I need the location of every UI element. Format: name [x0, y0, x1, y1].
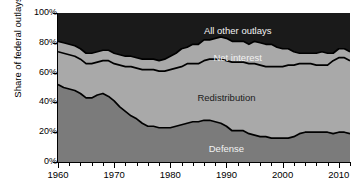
y-tick-mark — [53, 102, 57, 103]
x-tick-minor — [305, 163, 306, 166]
x-tick-minor — [137, 163, 138, 166]
x-tick-minor — [260, 163, 261, 166]
x-tick-major — [226, 163, 227, 168]
x-tick-major — [58, 163, 59, 168]
x-tick-minor — [316, 163, 317, 166]
x-tick-minor — [271, 163, 272, 166]
x-tick-minor — [159, 163, 160, 166]
x-tick-label: 2000 — [263, 170, 303, 180]
x-tick-minor — [182, 163, 183, 166]
x-tick-minor — [125, 163, 126, 166]
x-tick-major — [283, 163, 284, 168]
x-tick-label: 2010 — [319, 170, 359, 180]
y-axis-title: Share of federal outlays — [12, 0, 23, 123]
x-tick-label: 1990 — [206, 170, 246, 180]
y-tick-mark — [53, 73, 57, 74]
x-tick-minor — [350, 163, 351, 166]
x-tick-minor — [204, 163, 205, 166]
x-tick-major — [114, 163, 115, 168]
x-tick-minor — [294, 163, 295, 166]
stacked-area-chart: Share of federal outlays 0%20%40%60%80%1… — [0, 0, 361, 186]
y-tick-mark — [53, 43, 57, 44]
x-tick-minor — [215, 163, 216, 166]
x-tick-minor — [148, 163, 149, 166]
x-tick-minor — [328, 163, 329, 166]
x-tick-minor — [103, 163, 104, 166]
x-tick-minor — [193, 163, 194, 166]
x-tick-major — [339, 163, 340, 168]
y-tick-mark — [53, 13, 57, 14]
plot-area — [58, 13, 350, 162]
x-tick-minor — [249, 163, 250, 166]
x-tick-minor — [69, 163, 70, 166]
y-tick-mark — [53, 132, 57, 133]
y-tick-mark — [53, 162, 57, 163]
series-areas — [58, 13, 350, 162]
x-tick-major — [170, 163, 171, 168]
x-axis-tick-marks — [58, 163, 350, 168]
x-tick-label: 1980 — [150, 170, 190, 180]
x-tick-label: 1960 — [38, 170, 78, 180]
x-tick-label: 1970 — [94, 170, 134, 180]
x-tick-minor — [92, 163, 93, 166]
x-tick-minor — [80, 163, 81, 166]
x-tick-minor — [238, 163, 239, 166]
